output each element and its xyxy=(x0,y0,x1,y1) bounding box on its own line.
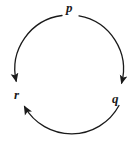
edge-q-to-r xyxy=(25,106,120,134)
cycle-diagram-canvas xyxy=(0,0,139,142)
edge-p-to-q xyxy=(79,16,123,83)
node-label-p: p xyxy=(66,1,73,14)
edge-p-to-r xyxy=(15,16,62,82)
node-label-r: r xyxy=(14,88,19,101)
cycle-diagram: p q r xyxy=(0,0,139,142)
node-label-q: q xyxy=(112,92,119,105)
